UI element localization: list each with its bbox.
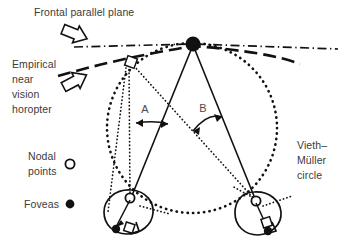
legend-foveas-label: Foveas [24,198,59,210]
angle-a-label: A [141,103,149,115]
vieth-muller-label-line2: Müller [297,154,327,166]
fixation-point-marker [186,37,201,52]
empirical-horopter-label-line4: horopter [12,103,52,115]
empirical-horopter-label: Empirical near vision horopter [12,58,56,115]
left-eye [104,190,153,234]
empirical-horopter-curve [58,46,300,76]
vieth-muller-label-line3: circle [297,169,322,181]
legend-filled-circle-marker-icon [66,200,75,209]
frontal-plane-label: Frontal parallel plane [34,6,134,18]
legend: Nodal points Foveas [24,150,75,210]
vieth-muller-circle-label: Vieth– Müller circle [297,139,327,181]
angle-b-label: B [199,102,206,114]
empirical-horopter-label-line2: near [12,73,34,85]
empirical-horopter-label-line1: Empirical [12,58,56,70]
angle-b-indicator [193,114,222,135]
legend-nodal-points-label-line2: points [28,165,57,177]
legend-nodal-points-label-line1: Nodal [28,150,56,162]
legend-open-circle-marker-icon [65,159,74,168]
eccentric-target-marker [125,56,138,69]
vieth-muller-label-line1: Vieth– [297,139,327,151]
empirical-horopter-pointer-arrow [59,67,90,95]
fixation-sight-lines [131,45,256,201]
empirical-horopter-label-line3: vision [12,88,40,100]
figure-canvas: A B [0,0,342,247]
frontal-parallel-plane-line [74,44,338,49]
right-eye [235,192,281,235]
frontal-plane-pointer-arrow [60,21,91,47]
